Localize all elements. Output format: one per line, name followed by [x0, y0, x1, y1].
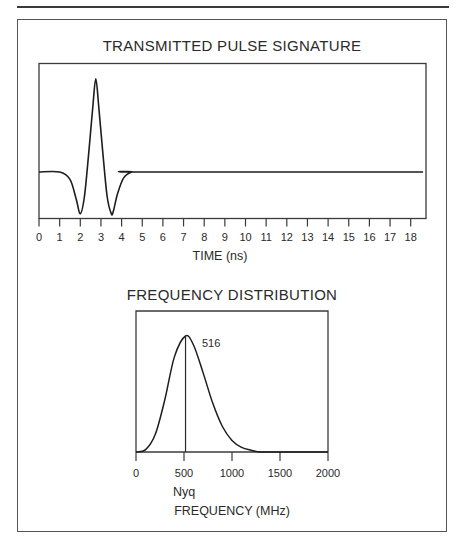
svg-text:3: 3: [98, 231, 104, 243]
bottom-chart-title: FREQUENCY DISTRIBUTION: [127, 286, 338, 303]
figure-caption-cropped: [17, 544, 447, 552]
svg-text:500: 500: [175, 467, 193, 479]
bottom-chart-x-ticks: [136, 452, 328, 461]
bottom-chart-frame: [136, 311, 328, 452]
svg-text:17: 17: [384, 231, 396, 243]
svg-text:18: 18: [405, 231, 417, 243]
svg-text:4: 4: [119, 231, 125, 243]
bottom-chart-x-axis-label: FREQUENCY (MHz): [174, 504, 290, 518]
svg-text:0: 0: [133, 467, 139, 479]
svg-text:12: 12: [281, 231, 293, 243]
svg-text:10: 10: [239, 231, 251, 243]
svg-text:6: 6: [160, 231, 166, 243]
top-chart-x-tick-labels: 0123456789101112131415161718: [36, 231, 417, 243]
svg-text:1: 1: [57, 231, 63, 243]
svg-text:2: 2: [77, 231, 83, 243]
svg-text:2000: 2000: [316, 467, 340, 479]
svg-text:9: 9: [222, 231, 228, 243]
svg-text:1000: 1000: [220, 467, 244, 479]
top-chart-x-ticks: [39, 219, 411, 227]
svg-text:16: 16: [363, 231, 375, 243]
svg-text:14: 14: [322, 231, 334, 243]
svg-text:1500: 1500: [268, 467, 292, 479]
bottom-chart-x-tick-labels: 0500100015002000: [133, 467, 340, 479]
svg-text:13: 13: [301, 231, 313, 243]
svg-text:15: 15: [343, 231, 355, 243]
svg-text:0: 0: [36, 231, 42, 243]
svg-text:5: 5: [139, 231, 145, 243]
frequency-spectrum-curve: [136, 336, 328, 453]
svg-text:11: 11: [260, 231, 271, 243]
svg-text:8: 8: [201, 231, 207, 243]
peak-frequency-label: 516: [202, 337, 220, 349]
top-chart-x-axis-label: TIME (ns): [193, 249, 248, 263]
pulse-waveform-line: [39, 79, 423, 215]
nyquist-label: Nyq: [173, 485, 195, 499]
svg-text:7: 7: [180, 231, 186, 243]
figure-svg: TRANSMITTED PULSE SIGNATURE 012345678910…: [0, 0, 464, 552]
top-chart-title: TRANSMITTED PULSE SIGNATURE: [103, 37, 362, 54]
